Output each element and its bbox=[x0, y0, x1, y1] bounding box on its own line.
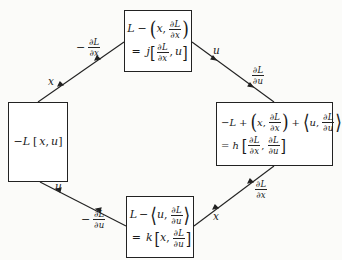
symbol: ∂u bbox=[269, 146, 279, 156]
symbol: , bbox=[261, 140, 264, 151]
symbol: ∂u bbox=[94, 220, 104, 230]
fraction-dL-du: ∂L∂u bbox=[173, 229, 185, 248]
symbol: ∂L bbox=[171, 206, 183, 216]
symbol: [ bbox=[155, 230, 160, 248]
symbol: ∂u bbox=[253, 76, 263, 86]
arrow-marker-icon bbox=[58, 82, 63, 86]
node-left-expression: −L [ x , u ] bbox=[14, 136, 63, 148]
symbol: , bbox=[170, 46, 174, 58]
symbol: ∂L bbox=[252, 66, 264, 76]
symbol: ⟩ bbox=[335, 112, 342, 132]
symbol: ] bbox=[281, 137, 286, 155]
node-top: L − ( x , ∂L∂x ) = j [ ∂L∂x , u ] bbox=[124, 10, 192, 72]
node-top-line2: = j [ ∂L∂x , u ] bbox=[128, 43, 187, 62]
label-text: x bbox=[48, 75, 54, 87]
node-right-line2: = h [ ∂L∂x , ∂L∂u ] bbox=[221, 136, 286, 155]
label-text: u bbox=[55, 180, 62, 192]
symbol: , bbox=[46, 136, 50, 148]
symbol: ) bbox=[182, 19, 189, 39]
symbol: [ bbox=[242, 137, 247, 155]
symbol: ⟨ bbox=[303, 112, 310, 132]
symbol: , bbox=[163, 23, 167, 35]
arrow-marker-icon bbox=[248, 179, 253, 183]
symbol: − bbox=[76, 41, 85, 54]
edge-label-u: u bbox=[213, 44, 220, 56]
symbol: u bbox=[51, 136, 58, 148]
symbol: , bbox=[166, 232, 170, 244]
fraction-dL-dx: ∂L∂x bbox=[169, 20, 181, 39]
fraction-dL-du: ∂L∂u bbox=[93, 210, 105, 229]
edge-label-x: x bbox=[213, 210, 219, 222]
symbol: ⟩ bbox=[184, 205, 191, 225]
symbol: ∂L bbox=[157, 43, 169, 53]
symbol: ∂u bbox=[172, 216, 182, 226]
symbol: u bbox=[157, 209, 164, 221]
symbol: ∂L bbox=[255, 180, 267, 190]
symbol: −L bbox=[14, 136, 31, 148]
symbol: , bbox=[263, 117, 266, 128]
symbol: −L bbox=[221, 117, 236, 128]
fraction-dL-du: ∂L∂u bbox=[322, 113, 334, 132]
symbol: [ bbox=[150, 44, 155, 62]
symbol: ] bbox=[186, 230, 191, 248]
symbol: , bbox=[164, 209, 168, 221]
symbol: − bbox=[81, 213, 90, 226]
symbol: ( bbox=[250, 112, 257, 132]
symbol: ∂L bbox=[169, 20, 181, 30]
symbol: ∂x bbox=[250, 146, 259, 156]
symbol: = bbox=[132, 232, 141, 244]
symbol: ∂L bbox=[93, 210, 105, 220]
symbol: u bbox=[175, 46, 182, 58]
node-right-line1: −L + ( x , ∂L∂x ) + ⟨ u , ∂L∂u ⟩ bbox=[221, 113, 342, 132]
node-left: −L [ x , u ] bbox=[8, 102, 68, 182]
node-bottom-line1: L − ⟨ u , ∂L∂u ⟩ bbox=[130, 206, 190, 225]
symbol: ∂x bbox=[158, 53, 167, 63]
node-bottom-line2: = k [ x , ∂L∂u ] bbox=[129, 229, 192, 248]
symbol: ∂L bbox=[173, 229, 185, 239]
symbol: − bbox=[139, 209, 148, 221]
symbol: ∂L bbox=[269, 113, 281, 123]
label-text: x bbox=[213, 210, 219, 222]
symbol: ∂L bbox=[88, 38, 100, 48]
symbol: − bbox=[138, 23, 147, 35]
edge-label-neg-dL-dx: − ∂L∂x bbox=[76, 38, 101, 57]
edge-label-x: x bbox=[48, 75, 54, 87]
symbol: L bbox=[127, 23, 134, 35]
fraction-dL-dx: ∂L∂x bbox=[255, 180, 267, 199]
node-bottom: L − ⟨ u , ∂L∂u ⟩ = k [ x , ∂L∂u ] bbox=[126, 196, 194, 258]
symbol: ∂x bbox=[256, 190, 265, 200]
symbol: ∂u bbox=[174, 239, 184, 249]
fraction-dL-du: ∂L∂u bbox=[268, 136, 280, 155]
symbol: ( bbox=[150, 19, 157, 39]
fraction-dL-dx: ∂L∂x bbox=[269, 113, 281, 132]
fraction-dL-du: ∂L∂u bbox=[252, 66, 264, 85]
symbol: ∂x bbox=[90, 48, 99, 58]
edge-label-dL-dx: ∂L∂x bbox=[254, 180, 268, 199]
fraction-dL-du: ∂L∂u bbox=[171, 206, 183, 225]
symbol: ∂x bbox=[270, 123, 279, 133]
symbol: = bbox=[221, 140, 229, 151]
symbol: L bbox=[130, 209, 137, 221]
symbol: , bbox=[316, 117, 319, 128]
symbol: + bbox=[239, 117, 247, 128]
symbol: k bbox=[146, 232, 153, 244]
symbol: ) bbox=[282, 112, 289, 132]
symbol: ] bbox=[182, 44, 187, 62]
symbol: ⟨ bbox=[150, 205, 157, 225]
symbol: ∂u bbox=[323, 123, 333, 133]
symbol: [ bbox=[33, 136, 37, 148]
node-top-line1: L − ( x , ∂L∂x ) bbox=[127, 20, 189, 39]
label-text: u bbox=[213, 44, 220, 56]
fraction-dL-dx: ∂L∂x bbox=[88, 38, 100, 57]
symbol: + bbox=[292, 117, 300, 128]
symbol: ] bbox=[58, 136, 62, 148]
edge-label-neg-dL-du: − ∂L∂u bbox=[81, 210, 106, 229]
symbol: ∂x bbox=[171, 30, 180, 40]
edge-label-u: u bbox=[55, 180, 62, 192]
fraction-dL-dx: ∂L∂x bbox=[248, 136, 260, 155]
symbol: ∂L bbox=[248, 136, 260, 146]
symbol: h bbox=[232, 140, 238, 151]
symbol: ∂L bbox=[268, 136, 280, 146]
fraction-dL-dx: ∂L∂x bbox=[157, 43, 169, 62]
symbol: ∂L bbox=[322, 113, 334, 123]
